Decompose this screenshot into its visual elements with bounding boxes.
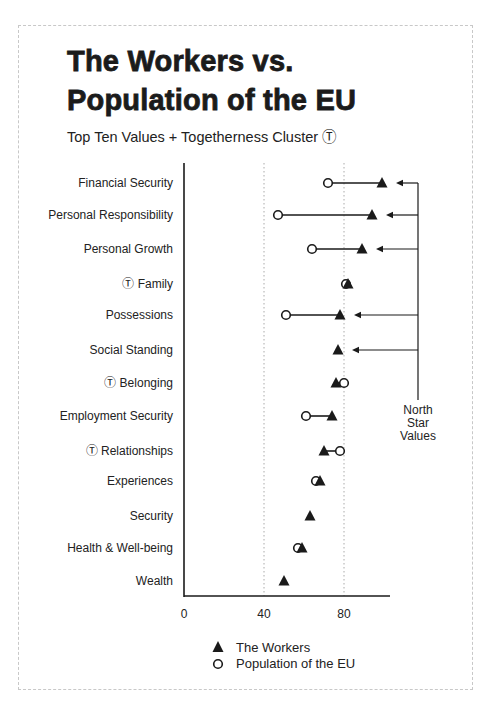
category-label: Ⓣ Belonging <box>104 376 173 390</box>
workers-marker <box>333 344 344 355</box>
population-eu-marker <box>302 412 311 421</box>
x-tick-label: 40 <box>257 607 271 621</box>
legend-triangle-icon <box>213 641 224 652</box>
category-label: Security <box>130 509 173 523</box>
category-label: Social Standing <box>90 343 173 357</box>
legend-label-population: Population of the EU <box>236 656 355 671</box>
north-star-label: Values <box>400 429 436 443</box>
workers-marker <box>279 575 290 586</box>
category-label: Personal Growth <box>84 242 173 256</box>
north-star-label: Star <box>407 416 429 430</box>
dot-plot: 04080Financial SecurityPersonal Responsi… <box>0 0 495 711</box>
category-label: Possessions <box>106 308 173 322</box>
category-label: Health & Well-being <box>67 541 173 555</box>
population-eu-marker <box>336 447 345 456</box>
population-eu-marker <box>274 211 283 220</box>
category-label: Ⓣ Family <box>122 277 173 291</box>
x-tick-label: 80 <box>337 607 351 621</box>
category-label: Wealth <box>136 574 173 588</box>
arrowhead-icon <box>386 212 393 218</box>
category-label: Employment Security <box>60 409 173 423</box>
legend-circle-icon <box>214 660 223 669</box>
legend-label-workers: The Workers <box>236 640 311 655</box>
x-tick-label: 0 <box>181 607 188 621</box>
category-label: Financial Security <box>78 176 173 190</box>
category-label: Experiences <box>107 474 173 488</box>
category-label: Ⓣ Relationships <box>86 444 173 458</box>
population-eu-marker <box>282 311 291 320</box>
arrowhead-icon <box>396 180 403 186</box>
arrowhead-icon <box>352 347 359 353</box>
arrowhead-icon <box>376 246 383 252</box>
arrowhead-icon <box>354 312 361 318</box>
workers-marker <box>305 510 316 521</box>
north-star-label: North <box>403 403 432 417</box>
category-label: Personal Responsibility <box>48 208 173 222</box>
population-eu-marker <box>308 245 317 254</box>
population-eu-marker <box>340 379 349 388</box>
population-eu-marker <box>324 179 333 188</box>
